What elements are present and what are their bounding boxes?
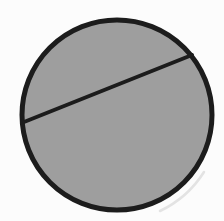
figure-container xyxy=(0,0,224,221)
circle-shape xyxy=(22,20,212,210)
geometry-figure xyxy=(0,0,224,221)
